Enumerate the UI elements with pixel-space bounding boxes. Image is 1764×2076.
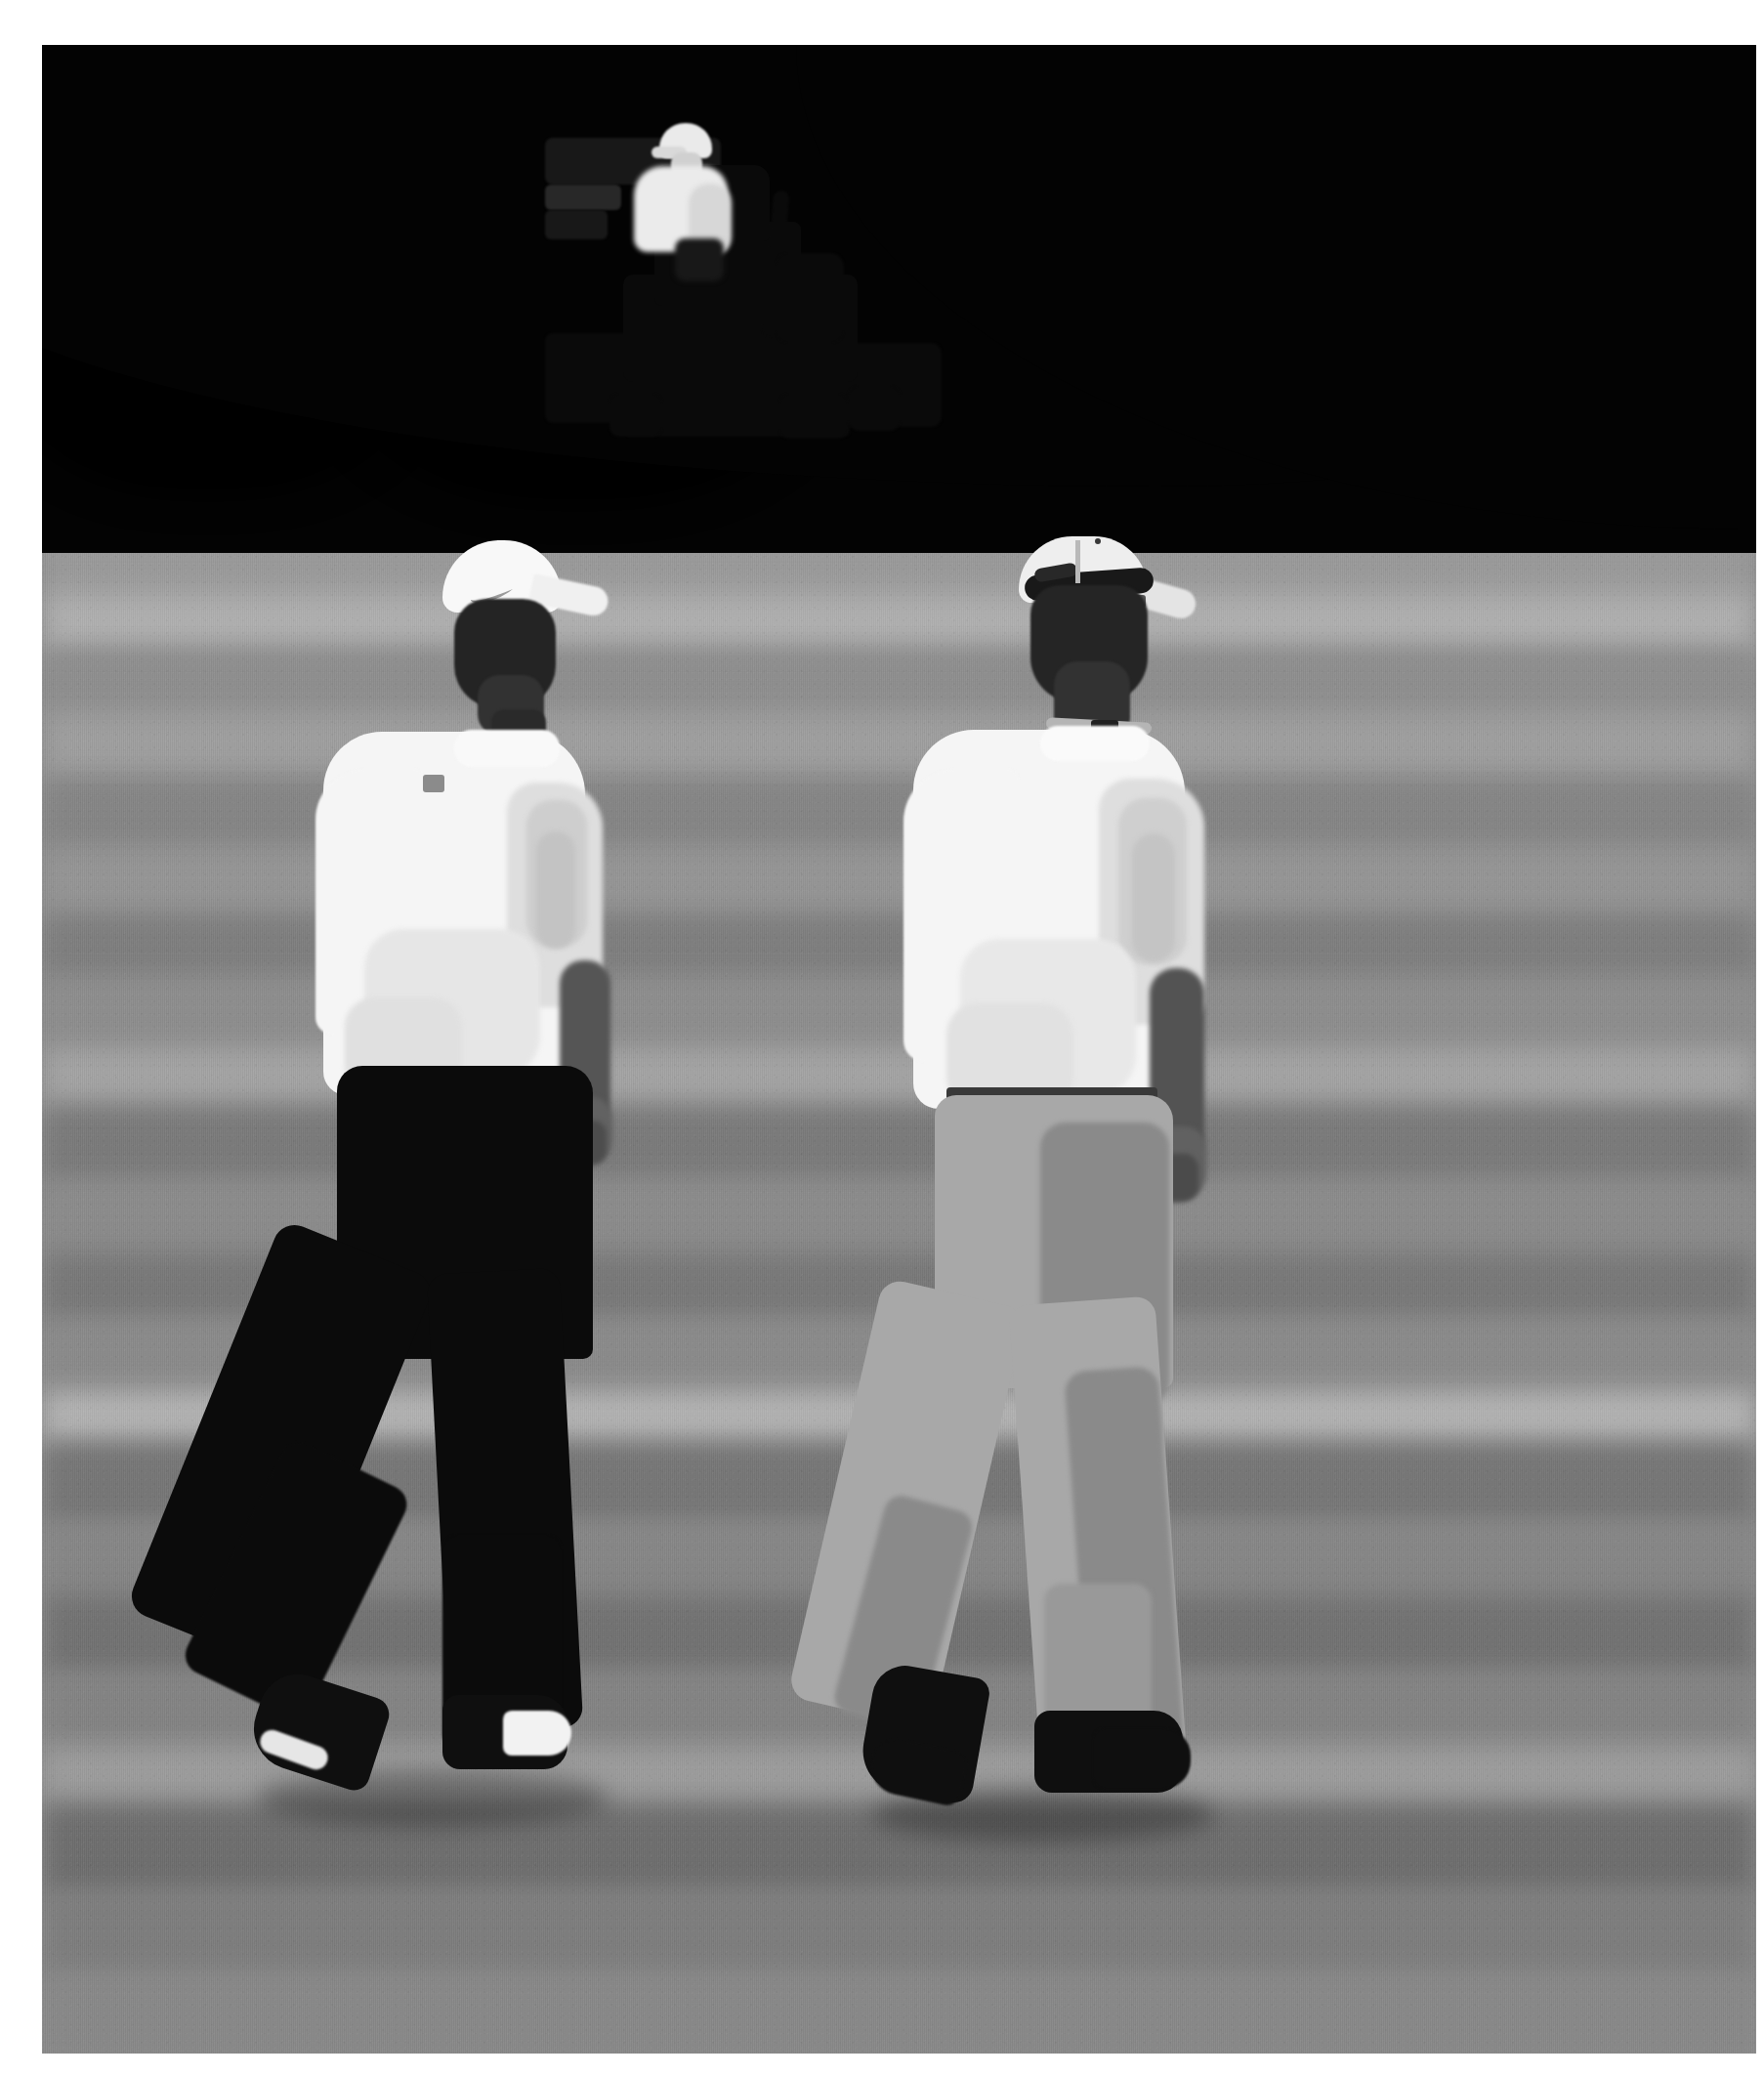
cap-seam: [1075, 540, 1080, 583]
shoe-front-sole: [503, 1711, 571, 1756]
golfer-left-shadow: [257, 1769, 609, 1826]
golfer-left: [247, 538, 657, 1838]
golfer-right: [853, 529, 1253, 1843]
photo-border: [0, 0, 1764, 2076]
mow-stripe: [42, 1973, 1756, 2054]
photograph: [42, 45, 1756, 2054]
greenskeeper: [628, 123, 745, 250]
shirt-logo: [423, 775, 444, 792]
collar: [454, 730, 560, 767]
collar: [1040, 726, 1150, 761]
ride-on-mower: [545, 138, 955, 441]
mow-stripe: [42, 1891, 1756, 1979]
